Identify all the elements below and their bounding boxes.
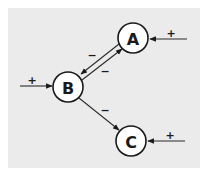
input-edge-a: +	[150, 27, 187, 40]
edge-b-to-c: −	[79, 98, 119, 130]
node-a: A	[118, 23, 148, 53]
arrow-icon	[79, 98, 119, 130]
node-c: C	[116, 126, 146, 156]
node-b-label: B	[62, 79, 74, 98]
sign-label-input-a: +	[166, 27, 175, 40]
regulatory-network-diagram: + + + − − − A B C	[0, 0, 208, 178]
node-b: B	[53, 72, 83, 102]
sign-label-a-to-b: −	[87, 49, 96, 62]
input-edge-c: +	[148, 129, 185, 142]
node-a-label: A	[127, 30, 140, 49]
sign-label-b-to-a: −	[100, 65, 109, 78]
sign-label-input-b: +	[27, 74, 36, 87]
sign-label-b-to-c: −	[100, 104, 109, 117]
input-edge-b: +	[20, 74, 52, 87]
sign-label-input-c: +	[165, 129, 174, 142]
node-c-label: C	[125, 133, 137, 152]
